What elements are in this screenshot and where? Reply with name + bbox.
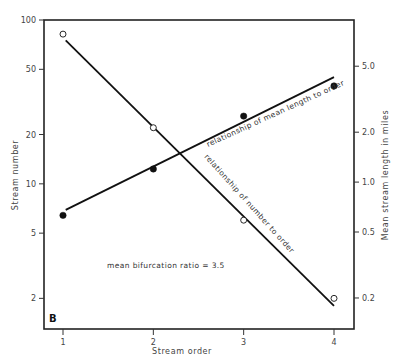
y-left-tick-label: 2: [31, 294, 36, 303]
point-stream-number: [150, 125, 156, 131]
x-tick-label: 4: [331, 338, 336, 347]
point-stream-number: [60, 31, 66, 37]
x-axis-title: Stream order: [152, 347, 212, 356]
plot-frame: [44, 20, 354, 329]
y-right-tick-label: 0.5: [362, 228, 375, 237]
chart: 1234 10050201052 5.02.01.00.50.2 Stream …: [0, 0, 404, 364]
y-right-tick-label: 5.0: [362, 62, 375, 71]
point-stream-number: [241, 217, 247, 223]
y-right-tick-label: 1.0: [362, 178, 375, 187]
line-label-length: relationship of mean length to order: [205, 78, 346, 149]
y-left-tick-label: 50: [26, 65, 36, 74]
point-stream-number: [331, 295, 337, 301]
y-right-tick-label: 2.0: [362, 128, 375, 137]
x-tick-label: 1: [60, 338, 65, 347]
y-left-tick-label: 100: [21, 16, 36, 25]
y-left-tick-label: 10: [26, 180, 36, 189]
point-mean-length: [150, 166, 156, 172]
point-mean-length: [60, 212, 66, 218]
y-axis-left-title: Stream number: [11, 140, 20, 211]
x-tick-label: 2: [151, 338, 156, 347]
y-right-tick-label: 0.2: [362, 294, 375, 303]
bifurcation-annotation: mean bifurcation ratio = 3.5: [107, 261, 225, 270]
panel-label: B: [49, 313, 57, 324]
y-axis-right-title: Mean stream length in miles: [381, 110, 390, 240]
y-left-tick-label: 20: [26, 131, 36, 140]
line-label-number: relationship of number to order: [203, 152, 297, 255]
fit-line-length: [66, 77, 334, 210]
point-mean-length: [240, 113, 246, 119]
x-tick-label: 3: [241, 338, 246, 347]
y-left-tick-label: 5: [31, 229, 36, 238]
